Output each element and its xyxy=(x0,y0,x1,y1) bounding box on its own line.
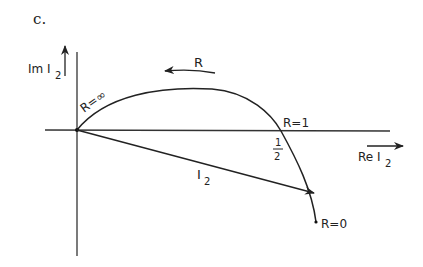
panel-label: c. xyxy=(33,10,46,28)
r-zero-label: R=0 xyxy=(321,217,347,231)
r-infinity-label: R=∞ xyxy=(78,87,109,115)
svg-text:2: 2 xyxy=(274,151,280,162)
re-axis-label: Re I 2 xyxy=(358,150,391,169)
r-one-label: R=1 xyxy=(283,116,309,130)
direction-arrow-icon xyxy=(165,70,215,73)
svg-text:2: 2 xyxy=(385,158,391,169)
phasor-label: I 2 xyxy=(197,167,210,187)
svg-text:2: 2 xyxy=(204,176,210,187)
half-label: 1 2 xyxy=(273,137,283,162)
locus-diagram: c. Im I 2 Re I 2 R R=∞ R=1 1 2 I 2 R=0 xyxy=(0,0,423,267)
svg-text:1: 1 xyxy=(275,137,281,148)
svg-text:2: 2 xyxy=(55,70,61,81)
direction-label: R xyxy=(194,55,203,70)
r-zero-point xyxy=(314,220,317,223)
svg-text:I: I xyxy=(197,167,201,182)
svg-text:Re I: Re I xyxy=(358,150,381,164)
im-axis-label: Im I 2 xyxy=(28,62,61,81)
real-axis xyxy=(45,130,390,131)
svg-text:Im I: Im I xyxy=(28,62,51,76)
